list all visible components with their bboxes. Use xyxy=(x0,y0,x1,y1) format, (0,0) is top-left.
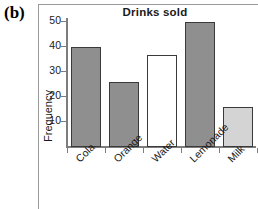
x-tick-mark xyxy=(105,148,106,153)
figure-panel-b: (b) Drinks sold 1020304050 Frequency Col… xyxy=(0,0,258,209)
y-tick-label-wrap: 30 xyxy=(36,71,61,72)
y-tick-label-wrap: 50 xyxy=(36,21,61,22)
x-tick-mark xyxy=(219,148,220,153)
y-tick-label: 30 xyxy=(41,64,61,76)
x-tick-mark xyxy=(67,148,68,153)
bar-water xyxy=(147,55,177,148)
bar-lemonade xyxy=(185,22,215,147)
x-tick-mark xyxy=(257,148,258,153)
y-axis-title: Frequency xyxy=(42,90,54,142)
y-tick-label: 50 xyxy=(41,14,61,26)
y-tick-label: 40 xyxy=(41,39,61,51)
panel-label: (b) xyxy=(4,3,25,23)
x-tick-mark xyxy=(143,148,144,153)
bar-cola xyxy=(71,47,101,147)
y-tick-label-wrap: 40 xyxy=(36,46,61,47)
x-tick-mark xyxy=(181,148,182,153)
